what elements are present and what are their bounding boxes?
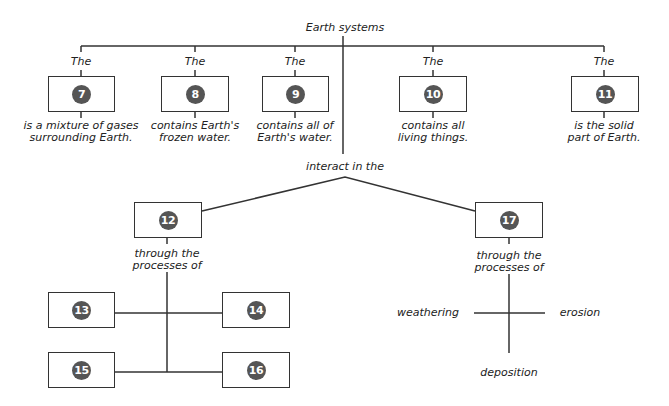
- node-description: contains all of Earth's water.: [250, 120, 340, 144]
- number-badge: 14: [247, 301, 266, 320]
- number-badge: 8: [186, 85, 205, 104]
- process-deposition: deposition: [474, 367, 544, 379]
- number-badge: 16: [247, 361, 266, 380]
- node-description: contains Earth's frozen water.: [140, 120, 250, 144]
- number-badge: 9: [286, 85, 305, 104]
- answer-box-9[interactable]: 9: [262, 76, 329, 112]
- node-description: is the solid part of Earth.: [554, 120, 654, 144]
- node-prefix: The: [61, 56, 101, 68]
- answer-box-17[interactable]: 17: [475, 202, 543, 238]
- answer-box-8[interactable]: 8: [161, 76, 229, 112]
- node-prefix: The: [584, 56, 624, 68]
- diagram-title: Earth systems: [290, 22, 400, 34]
- answer-box-12[interactable]: 12: [134, 202, 202, 238]
- number-badge: 7: [72, 85, 91, 104]
- interact-label: interact in the: [295, 161, 395, 173]
- answer-box-13[interactable]: 13: [48, 292, 115, 328]
- through-processes-label-left: through the processes of: [127, 248, 207, 272]
- desc-line: frozen water.: [140, 132, 250, 144]
- answer-box-15[interactable]: 15: [48, 352, 115, 388]
- node-description: contains all living things.: [383, 120, 483, 144]
- number-badge: 17: [500, 211, 519, 230]
- answer-box-7[interactable]: 7: [48, 76, 115, 112]
- desc-line: part of Earth.: [554, 132, 654, 144]
- label-line: processes of: [127, 260, 207, 272]
- desc-line: living things.: [383, 132, 483, 144]
- number-badge: 10: [424, 85, 443, 104]
- desc-line: surrounding Earth.: [11, 132, 151, 144]
- node-description: is a mixture of gases surrounding Earth.: [11, 120, 151, 144]
- answer-box-16[interactable]: 16: [222, 352, 290, 388]
- answer-box-11[interactable]: 11: [571, 76, 639, 112]
- process-weathering: weathering: [393, 307, 463, 319]
- node-prefix: The: [413, 56, 453, 68]
- label-line: processes of: [469, 262, 549, 274]
- number-badge: 13: [72, 301, 91, 320]
- desc-line: Earth's water.: [250, 132, 340, 144]
- answer-box-14[interactable]: 14: [222, 292, 290, 328]
- number-badge: 15: [72, 361, 91, 380]
- number-badge: 12: [159, 211, 178, 230]
- node-prefix: The: [275, 56, 315, 68]
- number-badge: 11: [596, 85, 615, 104]
- answer-box-10[interactable]: 10: [399, 76, 467, 112]
- process-erosion: erosion: [555, 307, 605, 319]
- node-prefix: The: [175, 56, 215, 68]
- through-processes-label-right: through the processes of: [469, 250, 549, 274]
